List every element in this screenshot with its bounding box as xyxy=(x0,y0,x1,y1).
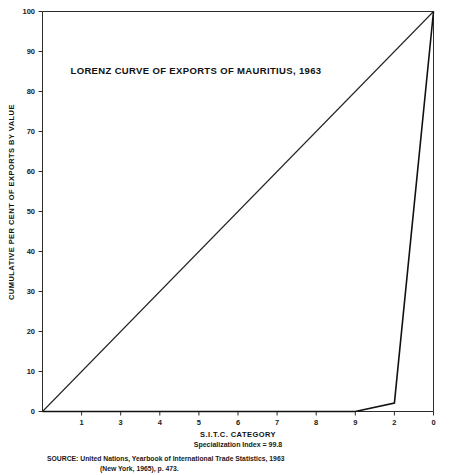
x-tick-label-8: 9 xyxy=(353,418,357,427)
x-tick-label-6: 7 xyxy=(275,418,279,427)
chart-canvas: 0 10 20 30 40 50 60 70 80 90 100 xyxy=(0,0,449,475)
x-axis-tick-labels: 1 3 4 5 6 7 8 9 2 0 xyxy=(80,418,436,427)
y-tick-label-40: 40 xyxy=(27,247,35,256)
y-tick-label-20: 20 xyxy=(27,327,35,336)
source-line-2: (New York, 1965), p. 473. xyxy=(100,465,179,473)
x-tick-label-10: 0 xyxy=(431,418,435,427)
y-tick-label-90: 90 xyxy=(27,47,35,56)
x-tick-label-7: 8 xyxy=(314,418,318,427)
y-axis-tick-labels: 0 10 20 30 40 50 60 70 80 90 100 xyxy=(22,7,35,416)
x-tick-label-3: 4 xyxy=(158,418,163,427)
y-axis-ticks xyxy=(39,12,43,412)
y-tick-label-60: 60 xyxy=(27,167,35,176)
y-tick-label-30: 30 xyxy=(27,287,35,296)
y-tick-label-10: 10 xyxy=(27,367,35,376)
specialization-index-label: Specialization Index = 99.8 xyxy=(194,441,283,449)
y-axis-title: CUMULATIVE PER CENT OF EXPORTS BY VALUE xyxy=(7,104,16,300)
x-tick-label-2: 3 xyxy=(119,418,123,427)
y-tick-label-70: 70 xyxy=(27,127,35,136)
x-axis-title: S.I.T.C. CATEGORY xyxy=(200,430,276,439)
y-tick-label-0: 0 xyxy=(31,407,35,416)
y-tick-label-50: 50 xyxy=(27,207,35,216)
x-tick-label-5: 6 xyxy=(236,418,240,427)
x-tick-label-1: 1 xyxy=(80,418,84,427)
source-line-1: SOURCE: United Nations, Yearbook of Inte… xyxy=(47,455,285,463)
chart-title: LORENZ CURVE OF EXPORTS OF MAURITIUS, 19… xyxy=(70,65,321,76)
x-tick-label-4: 5 xyxy=(197,418,201,427)
x-tick-label-9: 2 xyxy=(392,418,396,427)
lorenz-curve-figure: 0 10 20 30 40 50 60 70 80 90 100 xyxy=(0,0,449,475)
y-tick-label-80: 80 xyxy=(27,87,35,96)
y-tick-label-100: 100 xyxy=(22,7,35,16)
